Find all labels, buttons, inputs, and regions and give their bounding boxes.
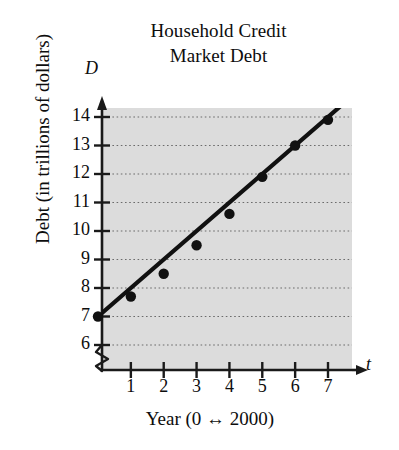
chart-canvas [0,0,399,450]
data-point [126,291,136,301]
data-point [191,240,201,250]
data-point [93,311,103,321]
plot-area-background [102,108,352,370]
data-point [323,115,333,125]
data-point [159,269,169,279]
data-point [224,209,234,219]
data-point [257,172,267,182]
data-point [290,140,300,150]
chart-figure: Household Credit Market Debt Debt (in tr… [0,0,399,450]
